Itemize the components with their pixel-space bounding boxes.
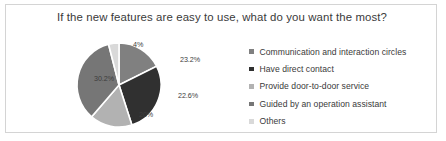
legend-label: Provide door-to-door service bbox=[260, 81, 370, 91]
pie-label-provide-door-to-door-service: 20% bbox=[139, 110, 153, 119]
chart-legend: Communication and interaction circles Ha… bbox=[249, 43, 439, 130]
pie-label-have-direct-contact: 22.6% bbox=[178, 91, 198, 100]
legend-item-others[interactable]: Others bbox=[249, 113, 439, 130]
legend-item-provide-door-to-door-service[interactable]: Provide door-to-door service bbox=[249, 78, 439, 95]
pie-label-guided-by-an-operation-assistant: 30.2% bbox=[94, 74, 114, 83]
legend-label: Others bbox=[260, 116, 286, 126]
chart-container: If the new features are easy to use, wha… bbox=[5, 4, 437, 133]
legend-swatch-icon bbox=[249, 49, 254, 54]
chart-title: If the new features are easy to use, wha… bbox=[6, 11, 438, 23]
legend-label: Guided by an operation assistant bbox=[260, 99, 387, 109]
pie-chart-graphic bbox=[64, 41, 174, 129]
legend-item-have-direct-contact[interactable]: Have direct contact bbox=[249, 60, 439, 77]
legend-item-communication-and-interaction-circles[interactable]: Communication and interaction circles bbox=[249, 43, 439, 60]
legend-label: Have direct contact bbox=[260, 64, 334, 74]
legend-swatch-icon bbox=[249, 67, 254, 72]
legend-swatch-icon bbox=[249, 102, 254, 107]
pie-plot-area: 23.2% 22.6% 20% 30.2% 4% bbox=[6, 29, 246, 133]
legend-swatch-icon bbox=[249, 119, 254, 124]
pie-label-communication-and-interaction-circles: 23.2% bbox=[180, 55, 200, 64]
legend-swatch-icon bbox=[249, 84, 254, 89]
legend-label: Communication and interaction circles bbox=[260, 47, 407, 57]
legend-item-guided-by-an-operation-assistant[interactable]: Guided by an operation assistant bbox=[249, 95, 439, 112]
pie-label-others: 4% bbox=[133, 40, 143, 49]
